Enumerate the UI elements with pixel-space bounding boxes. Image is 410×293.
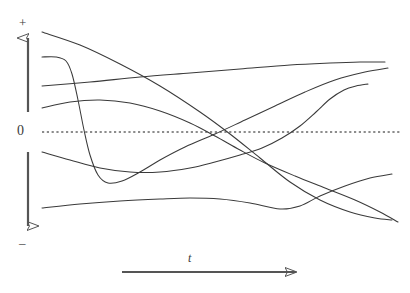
axis-label-zero: 0 [17, 124, 24, 138]
curve-2-early-plunge-recover [42, 57, 388, 184]
axis-label-negative: – [19, 236, 26, 249]
axis-label-time: t [188, 252, 191, 264]
figure-canvas: + 0 – t [0, 0, 410, 293]
axis-label-positive: + [19, 16, 26, 29]
qualitative-curves-diagram [0, 0, 410, 293]
curve-group [42, 32, 398, 222]
curve-3-slow-rise-flat [42, 62, 385, 86]
curve-1-descending-steep [42, 32, 392, 220]
curve-6-low-flat-gentle-arc [42, 174, 392, 209]
